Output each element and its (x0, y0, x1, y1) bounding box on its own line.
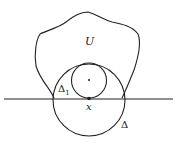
center-point (88, 79, 90, 81)
label-delta: Δ (121, 120, 128, 130)
label-delta1-sub: 1 (65, 89, 69, 97)
point-x (87, 97, 91, 101)
label-delta1: Δ1 (58, 84, 70, 97)
label-x: x (86, 102, 92, 112)
diagram-drawing (0, 0, 185, 144)
region-u-boundary (35, 12, 139, 98)
label-u: U (85, 36, 94, 47)
diagram: U Δ1 x Δ (0, 0, 185, 144)
